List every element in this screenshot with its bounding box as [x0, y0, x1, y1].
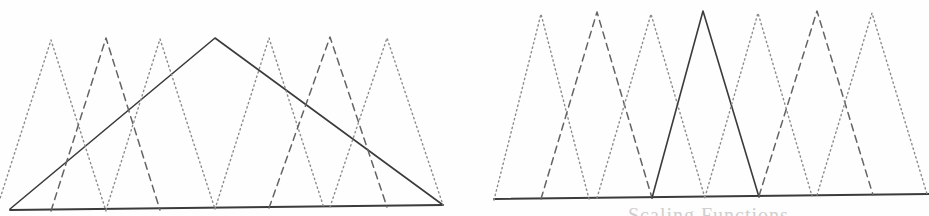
fine-hat-6-dotted [330, 38, 443, 207]
fine-hat-7-dotted [817, 13, 927, 195]
left-panel [0, 0, 465, 216]
right-panel [465, 0, 929, 216]
selected-hat-solid [652, 11, 759, 198]
figure-root: Scaling Functions [0, 0, 929, 216]
fine-hat-1-dotted [0, 40, 106, 211]
left-panel-plot [0, 0, 465, 216]
fine-hat-2-dashed [541, 12, 652, 199]
fine-hat-4-dotted [215, 38, 324, 209]
fine-hat-5-dotted [705, 13, 812, 197]
fine-hat-3-dotted [597, 14, 705, 198]
baseline [494, 194, 929, 199]
fine-hat-2-dashed [51, 38, 160, 211]
fine-hat-1-dotted [494, 14, 589, 200]
right-panel-plot [465, 0, 929, 216]
fine-hat-3-dotted [106, 39, 215, 210]
fine-hat-5-dashed [269, 37, 387, 208]
baseline [10, 205, 443, 210]
fine-hat-6-dashed [759, 11, 873, 196]
